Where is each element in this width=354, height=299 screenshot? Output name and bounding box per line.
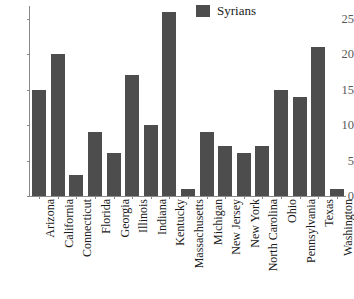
- bar-massachusetts: [181, 189, 195, 196]
- x-tick-label-new-york: New York: [249, 199, 261, 248]
- x-tick-label-texas: Texas: [323, 199, 335, 227]
- bar-new-jersey: [218, 146, 232, 196]
- x-tick-label-ohio: Ohio: [286, 199, 298, 223]
- x-tick-label-north-carolina: North Carolina: [267, 199, 279, 271]
- bar-new-york: [237, 153, 251, 196]
- y-tick-label-20: 20: [328, 48, 354, 61]
- x-tick-label-connecticut: Connecticut: [81, 199, 93, 257]
- bar-california: [51, 54, 65, 196]
- bar-connecticut: [69, 175, 83, 196]
- x-tick-label-michigan: Michigan: [212, 199, 224, 245]
- bar-texas: [311, 47, 325, 196]
- bar-north-carolina: [255, 146, 269, 196]
- x-tick-label-new-jersey: New Jersey: [230, 199, 242, 255]
- y-tick-label-5: 5: [328, 154, 354, 167]
- y-tick-mark-10: [27, 125, 30, 126]
- bars-container: [30, 8, 346, 196]
- x-tick-label-pennsylvania: Pennsylvania: [305, 199, 317, 263]
- x-tick-mark-washington: [337, 196, 338, 199]
- y-tick-label-25: 25: [328, 12, 354, 25]
- x-tick-label-washington: Washington: [342, 199, 354, 256]
- x-tick-mark-kentucky: [169, 196, 170, 199]
- bar-georgia: [107, 153, 121, 196]
- x-tick-mark-new-york: [244, 196, 245, 199]
- bar-indiana: [144, 125, 158, 196]
- bar-illinois: [125, 75, 139, 196]
- x-axis-labels: ArizonaCaliforniaConnecticutFloridaGeorg…: [30, 199, 346, 299]
- x-tick-label-arizona: Arizona: [44, 199, 56, 238]
- x-tick-mark-california: [58, 196, 59, 199]
- x-tick-mark-connecticut: [76, 196, 77, 199]
- bar-ohio: [274, 90, 288, 196]
- y-tick-mark-15: [27, 90, 30, 91]
- x-tick-label-california: California: [63, 199, 75, 248]
- x-tick-mark-texas: [318, 196, 319, 199]
- y-tick-label-10: 10: [328, 119, 354, 132]
- y-tick-label-15: 15: [328, 83, 354, 96]
- x-tick-mark-pennsylvania: [300, 196, 301, 199]
- x-tick-mark-arizona: [39, 196, 40, 199]
- bar-florida: [88, 132, 102, 196]
- y-tick-mark-20: [27, 54, 30, 55]
- x-tick-mark-illinois: [132, 196, 133, 199]
- x-tick-mark-michigan: [207, 196, 208, 199]
- x-tick-mark-north-carolina: [262, 196, 263, 199]
- bar-arizona: [32, 90, 46, 196]
- bar-pennsylvania: [293, 97, 307, 196]
- x-tick-mark-georgia: [114, 196, 115, 199]
- x-tick-mark-ohio: [281, 196, 282, 199]
- x-tick-label-florida: Florida: [100, 199, 112, 234]
- y-tick-mark-25: [27, 19, 30, 20]
- bar-kentucky: [162, 12, 176, 196]
- x-tick-label-illinois: Illinois: [137, 199, 149, 233]
- x-tick-label-kentucky: Kentucky: [174, 199, 186, 246]
- y-tick-mark-0: [27, 196, 30, 197]
- plot-area: [30, 8, 346, 196]
- x-tick-mark-massachusetts: [188, 196, 189, 199]
- x-tick-label-massachusetts: Massachusetts: [193, 199, 205, 268]
- x-tick-label-indiana: Indiana: [156, 199, 168, 235]
- bar-chart: Syrians 0510152025 ArizonaCaliforniaConn…: [0, 0, 354, 299]
- x-tick-mark-indiana: [151, 196, 152, 199]
- x-tick-label-georgia: Georgia: [119, 199, 131, 237]
- x-tick-mark-florida: [95, 196, 96, 199]
- x-tick-mark-new-jersey: [225, 196, 226, 199]
- y-tick-mark-5: [27, 161, 30, 162]
- bar-michigan: [200, 132, 214, 196]
